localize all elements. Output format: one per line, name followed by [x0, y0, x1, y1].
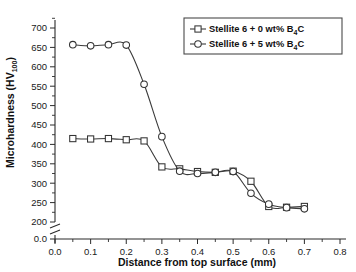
y-axis-title-text: Microhardness (HV — [4, 72, 16, 168]
x-axis-title-text: Distance from top surface (mm) — [118, 256, 276, 268]
data-point — [88, 136, 94, 142]
data-point — [141, 81, 148, 88]
svg-text:Microhardness (HV100): Microhardness (HV100) — [4, 57, 18, 168]
y-tick-label-zero: 0.0 — [34, 233, 47, 244]
x-tick-label: 0.8 — [333, 246, 346, 257]
y-axis-title-tail: ) — [4, 57, 16, 61]
data-point — [141, 138, 147, 144]
chart-figure: 2002503003504004505005506006507000.0 0.0… — [0, 0, 356, 272]
y-tick-label: 550 — [31, 81, 47, 92]
data-point — [105, 41, 112, 48]
legend-circle-marker-icon — [195, 41, 202, 48]
y-tick-label: 600 — [31, 61, 47, 72]
y-tick-label: 650 — [31, 42, 47, 53]
x-tick-label: 0.7 — [298, 246, 311, 257]
y-tick-label: 250 — [31, 197, 47, 208]
data-point — [283, 204, 290, 211]
data-point — [87, 43, 94, 50]
data-point — [70, 135, 76, 141]
data-point — [248, 190, 255, 197]
y-tick-label: 400 — [31, 139, 47, 150]
y-axis-title-subscript: 100 — [11, 61, 18, 73]
data-point — [70, 41, 77, 48]
data-point — [265, 201, 272, 208]
data-point — [159, 164, 165, 170]
microhardness-line-chart: 2002503003504004505005506006507000.0 0.0… — [0, 0, 356, 272]
data-point — [105, 135, 111, 141]
y-tick-label: 500 — [31, 100, 47, 111]
data-point — [123, 137, 129, 143]
x-tick-label: 0.0 — [48, 246, 61, 257]
y-tick-label: 200 — [31, 216, 47, 227]
x-tick-label: 0.1 — [84, 246, 97, 257]
data-point — [248, 178, 254, 184]
data-point — [301, 206, 308, 213]
y-tick-label: 450 — [31, 119, 47, 130]
data-point — [123, 42, 130, 49]
chart-legend[interactable]: Stellite 6 + 0 wt% B4CStellite 6 + 5 wt%… — [184, 18, 342, 54]
y-tick-label: 700 — [31, 22, 47, 33]
data-point — [159, 133, 166, 140]
y-tick-label: 300 — [31, 178, 47, 189]
data-point — [176, 168, 183, 175]
data-point — [212, 169, 219, 176]
data-point — [194, 170, 201, 177]
y-axis-title: Microhardness (HV100) — [4, 57, 18, 168]
y-tick-label: 350 — [31, 158, 47, 169]
x-axis-title: Distance from top surface (mm) — [118, 256, 276, 268]
data-point — [230, 168, 237, 175]
legend-square-marker-icon — [195, 26, 201, 32]
